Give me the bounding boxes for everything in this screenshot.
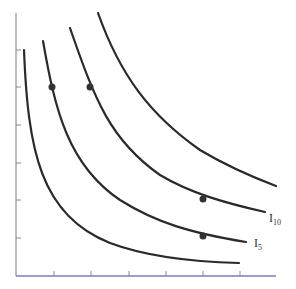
label-i5-sub: 5 [258, 243, 262, 252]
indifference-curve-4 [98, 13, 276, 186]
label-i10: I10 [269, 212, 281, 227]
indifference-curve-i5 [43, 41, 246, 242]
indifference-curve-chart [0, 0, 296, 289]
label-i10-sub: 10 [273, 218, 281, 227]
label-i5: I5 [254, 237, 262, 252]
x-axis-ticks [54, 271, 240, 276]
point-i5-right [200, 233, 207, 240]
point-i10-left [87, 84, 94, 91]
point-i5-left [49, 84, 56, 91]
point-i10-right [200, 196, 207, 203]
y-axis-ticks [16, 50, 21, 238]
